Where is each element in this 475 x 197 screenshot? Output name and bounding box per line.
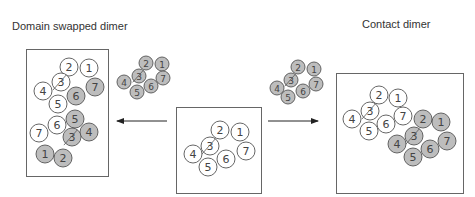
residue-6-label: 6 <box>148 82 154 92</box>
contact-group: 21347652137465 <box>343 86 456 166</box>
residue-5-label: 5 <box>366 125 373 138</box>
residue-5-label: 5 <box>55 98 62 111</box>
right-small-group: 2137465 <box>270 60 323 104</box>
center-monomer-group: 2137465 <box>184 121 255 176</box>
residue-7-label: 7 <box>92 81 99 94</box>
residue-1-label: 1 <box>86 62 93 75</box>
residue-2-label: 2 <box>66 61 73 74</box>
residue-2-label: 2 <box>143 59 149 69</box>
residue-4-label: 4 <box>121 78 127 88</box>
residue-1-label: 1 <box>42 148 49 161</box>
residue-7-label: 7 <box>400 110 407 123</box>
residue-1-label: 1 <box>438 116 445 129</box>
residue-1-label: 1 <box>395 92 402 105</box>
residue-4-label: 4 <box>349 113 356 126</box>
residue-7-label: 7 <box>243 145 250 158</box>
residue-7-label: 7 <box>313 80 319 90</box>
residue-5-label: 5 <box>72 113 79 126</box>
residue-5-label: 5 <box>205 161 212 174</box>
residue-5-label: 5 <box>410 151 417 164</box>
residue-6-label: 6 <box>54 119 61 132</box>
residue-4-label: 4 <box>86 126 93 139</box>
residue-1-label: 1 <box>159 60 165 70</box>
residue-6-label: 6 <box>427 143 434 156</box>
dimer-diagram: 2137465213746521374652137465564731221347… <box>0 0 475 197</box>
residue-7-label: 7 <box>444 135 451 148</box>
residue-2-label: 2 <box>217 124 224 137</box>
residue-4-label: 4 <box>190 148 197 161</box>
residue-5-label: 5 <box>134 88 140 98</box>
residue-7-label: 7 <box>160 74 166 84</box>
residue-2-label: 2 <box>376 89 383 102</box>
residue-2-label: 2 <box>60 152 67 165</box>
residue-4-label: 4 <box>274 84 280 94</box>
residue-1-label: 1 <box>311 65 317 75</box>
residue-4-label: 4 <box>40 85 47 98</box>
residue-6-label: 6 <box>73 90 80 103</box>
residue-2-label: 2 <box>295 63 301 73</box>
residue-6-label: 6 <box>223 153 230 166</box>
residue-7-label: 7 <box>36 127 43 140</box>
residue-2-label: 2 <box>420 113 427 126</box>
residue-6-label: 6 <box>300 87 306 97</box>
residue-5-label: 5 <box>285 93 291 103</box>
residue-6-label: 6 <box>383 118 390 131</box>
residue-4-label: 4 <box>394 138 401 151</box>
domain-swapped-group: 21374655647312 <box>30 58 104 167</box>
residue-1-label: 1 <box>237 126 244 139</box>
left-small-group: 2137465 <box>117 56 170 99</box>
